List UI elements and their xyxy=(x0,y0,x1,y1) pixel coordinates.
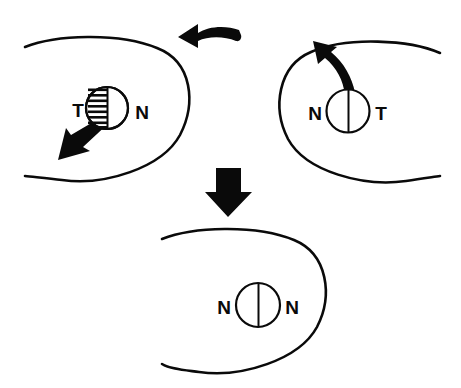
bottom-nucleus xyxy=(236,283,280,327)
top-right-nucleus xyxy=(327,90,370,133)
top-right-label-N: N xyxy=(308,103,322,124)
top-left-label-T: T xyxy=(72,100,84,121)
curved-arrow-leftward xyxy=(178,24,241,48)
top-right-label-T: T xyxy=(375,103,387,124)
block-arrow-downward xyxy=(205,168,252,217)
bottom-label-N-left: N xyxy=(217,297,231,318)
top-left-label-N: N xyxy=(135,102,149,123)
top-left-nucleus xyxy=(84,87,128,129)
bottom-cell: N N xyxy=(162,229,326,373)
cell-polarity-diagram: T N N T xyxy=(0,0,461,388)
diagram-canvas: T N N T xyxy=(0,0,461,388)
migration-arrow-up-left xyxy=(313,41,355,95)
top-right-cell: N T xyxy=(279,41,440,182)
top-left-cell: T N xyxy=(25,37,189,181)
bottom-label-N-right: N xyxy=(285,297,299,318)
